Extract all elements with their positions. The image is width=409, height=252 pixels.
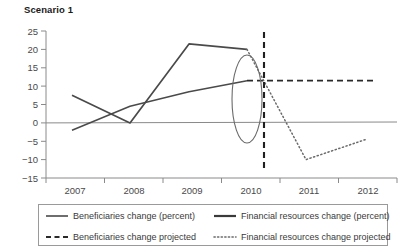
y-tick-labels: 25 20 15 10 5 0 −5 −10 −15 xyxy=(22,26,38,184)
legend-label: Financial resources change (percent) xyxy=(241,211,390,221)
svg-text:0: 0 xyxy=(33,117,38,128)
svg-text:2007: 2007 xyxy=(64,185,85,196)
svg-text:2010: 2010 xyxy=(240,185,261,196)
line-solid-icon xyxy=(45,211,69,221)
x-tick-marks xyxy=(46,178,397,183)
legend-label: Financial resources change projected xyxy=(241,232,391,242)
svg-text:−5: −5 xyxy=(27,136,38,147)
svg-text:15: 15 xyxy=(27,62,38,73)
legend-label: Beneficiaries change (percent) xyxy=(73,211,195,221)
chart-legend: Beneficiaries change (percent) Financial… xyxy=(38,204,388,246)
series-financial-resources-change xyxy=(72,44,247,123)
legend-item-beneficiaries-change: Beneficiaries change (percent) xyxy=(39,211,207,221)
svg-text:25: 25 xyxy=(27,26,38,37)
svg-text:−10: −10 xyxy=(22,154,38,165)
legend-label: Beneficiaries change projected xyxy=(73,232,196,242)
line-solid-thick-icon xyxy=(213,211,237,221)
line-dotted-icon xyxy=(213,232,237,242)
svg-text:−15: −15 xyxy=(22,173,38,184)
svg-text:2008: 2008 xyxy=(123,185,144,196)
legend-item-financial-resources-change: Financial resources change (percent) xyxy=(207,211,389,221)
line-dashed-icon xyxy=(45,232,69,242)
svg-text:2009: 2009 xyxy=(181,185,202,196)
svg-text:2012: 2012 xyxy=(357,185,378,196)
svg-text:2011: 2011 xyxy=(299,185,319,196)
legend-item-beneficiaries-projected: Beneficiaries change projected xyxy=(39,232,207,242)
convergence-ellipse xyxy=(232,55,262,143)
x-tick-labels: 2007 2008 2009 2010 2011 2012 xyxy=(64,185,378,196)
chart-plot-area: 25 20 15 10 5 0 −5 −10 −15 2007 2008 200… xyxy=(0,0,409,200)
zero-line xyxy=(46,122,397,123)
svg-text:10: 10 xyxy=(27,81,38,92)
y-tick-marks xyxy=(41,31,46,178)
legend-item-financial-resources-projected: Financial resources change projected xyxy=(207,232,389,242)
svg-text:20: 20 xyxy=(27,44,38,55)
svg-text:5: 5 xyxy=(33,99,38,110)
